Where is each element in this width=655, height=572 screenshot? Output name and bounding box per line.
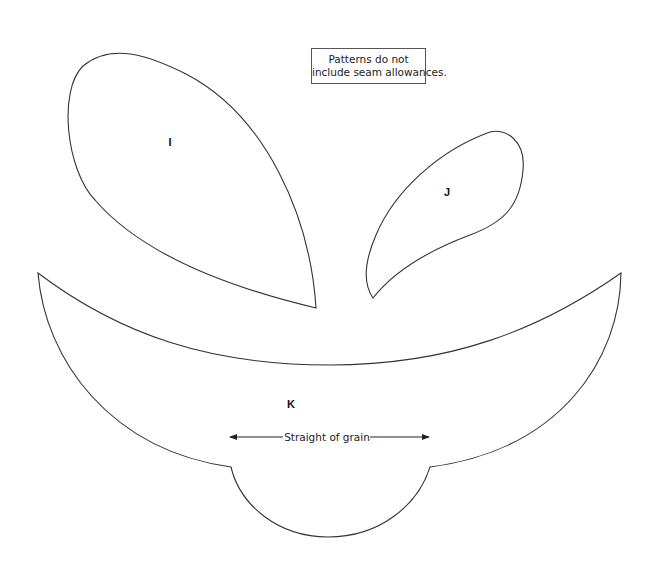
piece-k-label: K bbox=[287, 398, 295, 410]
grainline-arrow: Straight of grain bbox=[230, 431, 429, 443]
piece-k-outline bbox=[38, 273, 621, 537]
pattern-piece-k: K Straight of grain bbox=[38, 273, 621, 537]
grainline-label: Straight of grain bbox=[284, 431, 370, 443]
pattern-piece-j: J bbox=[366, 131, 523, 298]
pattern-sheet: I J K Straight of grain bbox=[0, 0, 655, 572]
piece-j-outline bbox=[366, 131, 523, 298]
pattern-piece-i: I bbox=[68, 53, 316, 308]
piece-j-label: J bbox=[444, 186, 450, 198]
piece-i-outline bbox=[68, 53, 316, 308]
piece-i-label: I bbox=[168, 136, 171, 148]
